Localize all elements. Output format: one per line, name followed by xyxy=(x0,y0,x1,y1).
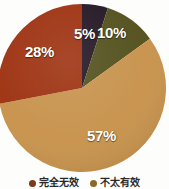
legend-item-label: 完全无效 xyxy=(39,178,79,188)
pie-chart-figure: 5% 10% 28% 57% 完全无效 不太有效 xyxy=(0,0,169,189)
pie-slice-label-28: 28% xyxy=(25,44,54,59)
legend-item-1[interactable]: 不太有效 xyxy=(90,178,140,188)
pie-chart-plot-area: 5% 10% 28% 57% xyxy=(0,0,169,172)
legend-item-0[interactable]: 完全无效 xyxy=(29,178,79,188)
pie-slice-label-57: 57% xyxy=(87,128,116,143)
legend-color-dot-icon xyxy=(90,180,97,187)
pie-slice-label-10: 10% xyxy=(97,25,126,40)
pie-slice-label-5: 5% xyxy=(74,26,95,41)
chart-legend: 完全无效 不太有效 xyxy=(0,175,169,189)
legend-item-label: 不太有效 xyxy=(100,178,140,188)
legend-color-dot-icon xyxy=(29,180,36,187)
